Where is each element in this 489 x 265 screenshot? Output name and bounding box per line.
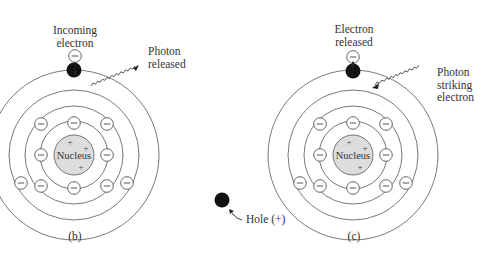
electron-released-label: Electron released: [328, 23, 380, 48]
electron-icon: [314, 180, 327, 193]
electron-icon: [347, 182, 360, 195]
electron-icon: [294, 177, 307, 190]
atom-c: Nucleus + + +: [268, 51, 438, 240]
plus-charge-icon: +: [362, 143, 367, 153]
electron-icon: [15, 177, 28, 190]
photon-wave-icon: [90, 66, 135, 86]
captured-electron-b: [67, 63, 82, 78]
atom-b: Nucleus + + +: [0, 50, 159, 240]
plus-charge-icon: +: [346, 137, 351, 147]
electron-icon: [380, 118, 393, 131]
released-electron-icon: [347, 51, 360, 64]
electron-icon: [380, 149, 393, 162]
electron-icon: [121, 177, 134, 190]
incoming-electron-icon: [69, 50, 82, 63]
electron-icon: [35, 180, 48, 193]
electron-icon: [35, 149, 48, 162]
incoming-electron-label: Incoming electron: [46, 24, 104, 49]
hole-arrow-icon: [232, 213, 242, 220]
caption-b: (b): [60, 230, 90, 243]
electron-icon: [380, 180, 393, 193]
plus-charge-icon: +: [67, 137, 72, 147]
electron-icon: [101, 149, 114, 162]
plus-charge-icon: +: [83, 143, 88, 153]
electron-icon: [101, 180, 114, 193]
electron-icon: [347, 117, 360, 130]
electron-icon: [68, 117, 81, 130]
hole-icon: [215, 193, 230, 208]
photon-striking-label: Photon striking electron: [437, 66, 474, 104]
electron-icon: [400, 177, 413, 190]
hole-label: Hole (+): [246, 213, 285, 226]
electron-icon: [35, 118, 48, 131]
plus-charge-icon: +: [357, 162, 362, 172]
caption-c: (c): [339, 230, 369, 243]
photon-arrowhead-icon: [133, 65, 139, 71]
electron-icon: [68, 182, 81, 195]
electron-icon: [101, 118, 114, 131]
plus-charge-icon: +: [78, 162, 83, 172]
electron-icon: [314, 118, 327, 131]
atom-ionization-diagram: Nucleus + + +: [0, 0, 489, 265]
photon-released-label: Photon released: [148, 45, 186, 70]
electron-icon: [314, 149, 327, 162]
